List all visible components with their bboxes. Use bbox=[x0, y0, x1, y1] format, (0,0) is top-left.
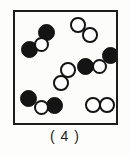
molecule-diatomic-bottom-right bbox=[15, 12, 116, 123]
atom-filled bbox=[38, 24, 55, 41]
molecule-triatomic-bottom-left bbox=[15, 12, 116, 123]
molecule-triatomic-right-middle bbox=[15, 12, 116, 123]
atom-filled bbox=[77, 58, 94, 75]
atom-open bbox=[34, 100, 49, 115]
atom-open bbox=[99, 97, 115, 113]
atom-filled bbox=[21, 41, 38, 58]
molecule-diatomic-top-right bbox=[15, 12, 116, 123]
molecule-diatomic-center bbox=[15, 12, 116, 123]
atom-open bbox=[34, 37, 49, 52]
atom-filled bbox=[20, 90, 37, 107]
atom-open bbox=[82, 27, 98, 43]
atom-open bbox=[92, 59, 107, 74]
atom-open bbox=[70, 17, 86, 33]
atom-filled bbox=[102, 47, 119, 64]
particle-diagram-figure: ( 4 ) bbox=[0, 0, 130, 157]
atom-open bbox=[60, 62, 76, 78]
atom-filled bbox=[46, 97, 63, 114]
figure-caption: ( 4 ) bbox=[0, 128, 130, 144]
molecule-triatomic-top-left bbox=[15, 12, 116, 123]
particle-container-box bbox=[13, 10, 118, 125]
atom-open bbox=[85, 97, 101, 113]
atom-open bbox=[53, 75, 69, 91]
